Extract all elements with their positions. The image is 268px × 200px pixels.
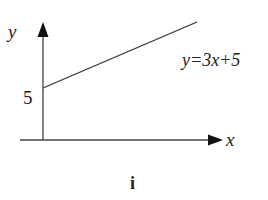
function-line — [43, 22, 197, 88]
figure-caption: i — [130, 173, 135, 193]
x-axis-label: x — [225, 129, 235, 150]
y-axis-label: y — [6, 21, 17, 42]
x-axis-arrow-icon — [208, 135, 223, 146]
intercept-label: 5 — [23, 87, 33, 108]
graph-diagram: y 5 x y=3x+5 i — [0, 0, 268, 200]
equation-label: y=3x+5 — [180, 50, 240, 70]
y-axis-arrow-icon — [38, 22, 49, 37]
